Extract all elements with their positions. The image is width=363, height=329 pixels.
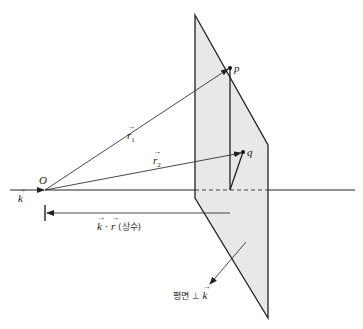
dot-product-label: k · r (상수) bbox=[97, 221, 141, 232]
origin-label: O bbox=[39, 175, 47, 186]
point-p bbox=[228, 66, 232, 70]
plane-perp-text: 평면 ⊥ bbox=[173, 291, 200, 301]
r1-subscript: 1 bbox=[131, 136, 135, 144]
r2-label-text: r bbox=[153, 155, 157, 166]
r2-subscript: 2 bbox=[157, 161, 161, 169]
diagram-canvas bbox=[0, 0, 363, 329]
plane-wave-diagram: O k p q r1 r2 k · r (상수) 평면 ⊥ k bbox=[0, 0, 363, 329]
k-label-text: k bbox=[18, 193, 23, 204]
k-vector-label: k bbox=[18, 193, 23, 204]
plane-perp-k: k bbox=[202, 290, 207, 301]
point-p-label: p bbox=[234, 63, 240, 74]
constant-note: (상수) bbox=[118, 222, 141, 232]
r1-label-text: r bbox=[127, 130, 131, 141]
r1-label: r1 bbox=[127, 130, 135, 144]
dot-symbol: · bbox=[105, 220, 109, 232]
plane-perp-label: 평면 ⊥ k bbox=[173, 290, 207, 301]
r2-label: r2 bbox=[153, 155, 161, 169]
dot-k: k bbox=[97, 221, 102, 232]
point-q bbox=[241, 150, 245, 154]
point-q-label: q bbox=[247, 147, 253, 158]
dot-r: r bbox=[111, 221, 115, 232]
plane-shape bbox=[195, 15, 268, 318]
